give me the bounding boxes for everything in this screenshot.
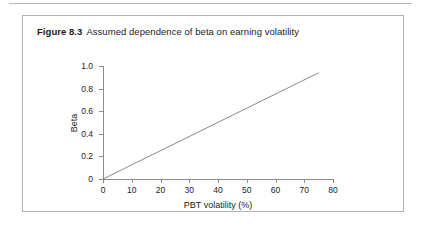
x-axis-tick (333, 179, 334, 183)
x-axis-tick-label: 50 (242, 185, 251, 195)
figure-container: Figure 8.3Assumed dependence of beta on … (22, 15, 404, 212)
x-axis-tick (304, 179, 305, 183)
x-axis-tick-label: 80 (328, 185, 337, 195)
series-line-group (103, 66, 333, 179)
x-axis-title: PBT volatility (%) (184, 200, 252, 210)
x-axis-tick-label: 70 (300, 185, 309, 195)
y-axis-tick-label: 0.2 (81, 151, 93, 161)
page-horizontal-rule (9, 3, 412, 4)
y-axis-tick-label: 1.0 (81, 61, 93, 71)
figure-caption-text: Assumed dependence of beta on earning vo… (86, 26, 299, 37)
y-axis-tick-label: 0 (88, 174, 93, 184)
x-axis-tick-label: 10 (127, 185, 136, 195)
series-line-assumed-beta (103, 73, 319, 179)
x-axis-tick-label: 30 (185, 185, 194, 195)
x-axis-tick (218, 179, 219, 183)
y-axis-tick-label: 0.6 (81, 106, 93, 116)
x-axis-tick (276, 179, 277, 183)
x-axis-tick-label: 0 (101, 185, 106, 195)
y-axis-title: Beta (69, 113, 79, 132)
x-axis-tick (103, 179, 104, 183)
figure-number-label: Figure 8.3 (37, 26, 82, 37)
x-axis-tick-label: 40 (213, 185, 222, 195)
x-axis-tick (161, 179, 162, 183)
figure-caption: Figure 8.3Assumed dependence of beta on … (37, 26, 299, 37)
x-axis-tick (189, 179, 190, 183)
x-axis-tick-label: 20 (156, 185, 165, 195)
plot-area: 00.20.40.60.81.0 01020304050607080 Beta … (103, 66, 333, 179)
x-axis-tick (132, 179, 133, 183)
x-axis-tick (247, 179, 248, 183)
x-axis-tick-label: 60 (271, 185, 280, 195)
y-axis-tick-label: 0.4 (81, 129, 93, 139)
y-axis-tick-label: 0.8 (81, 84, 93, 94)
